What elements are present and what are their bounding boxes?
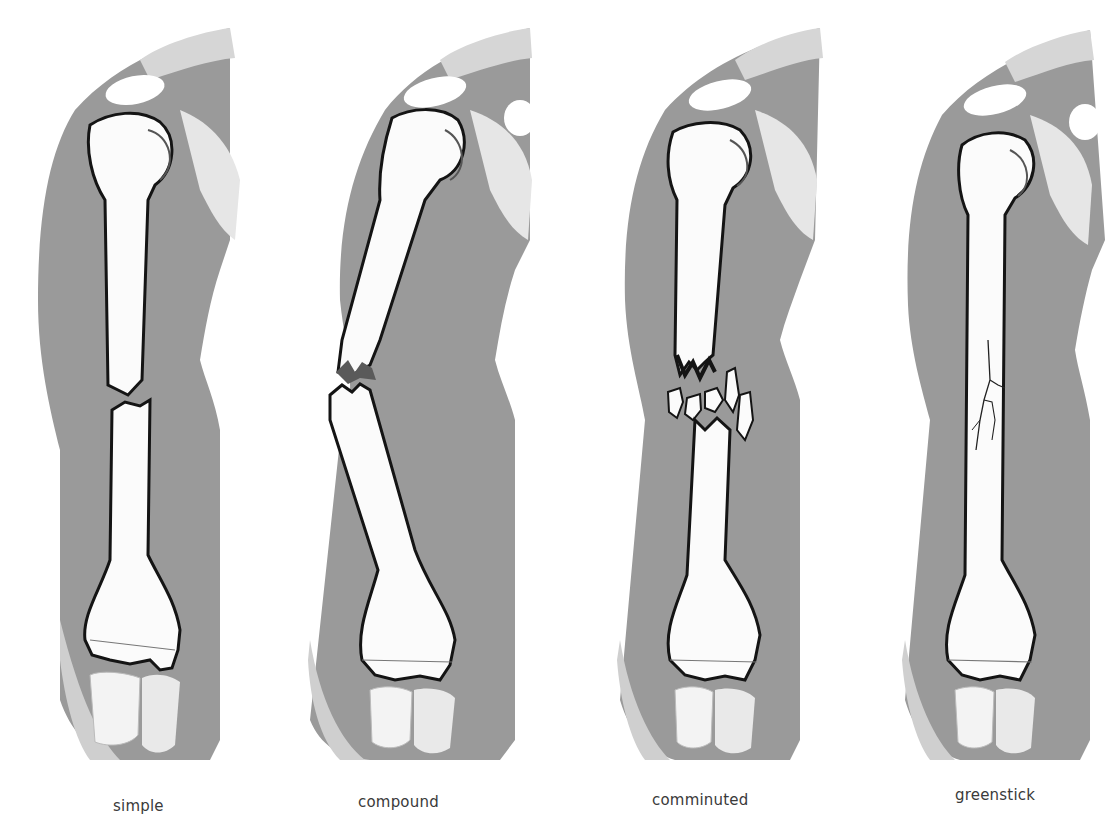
- caption-comminuted: comminuted: [652, 791, 748, 809]
- panel-simple: [30, 0, 260, 780]
- panel-comminuted: [605, 0, 845, 780]
- caption-greenstick: greenstick: [955, 786, 1035, 804]
- caption-simple: simple: [113, 797, 164, 815]
- arm-illustration-comminuted: [605, 0, 845, 780]
- caption-compound: compound: [358, 793, 439, 811]
- fracture-types-figure: simple compound comminuted greenstick: [0, 0, 1113, 840]
- panel-compound: [300, 0, 570, 780]
- arm-illustration-simple: [30, 0, 260, 780]
- arm-illustration-compound: [300, 0, 570, 780]
- panel-greenstick: [880, 0, 1113, 780]
- arm-illustration-greenstick: [880, 0, 1113, 780]
